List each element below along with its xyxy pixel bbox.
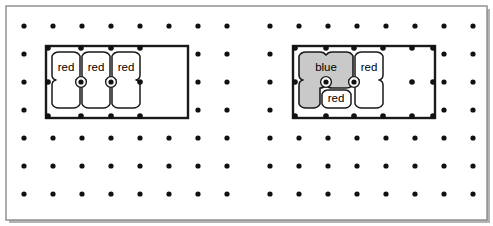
peg-dot xyxy=(354,191,359,196)
peg-dot xyxy=(21,163,26,168)
peg-dot xyxy=(166,163,171,168)
peg-dot xyxy=(296,191,301,196)
peg-dot xyxy=(470,23,475,28)
right-piece-red-small-outline xyxy=(322,90,351,108)
peg-dot xyxy=(21,107,26,112)
peg-dot xyxy=(50,191,55,196)
peg-dot xyxy=(224,79,229,84)
peg-dot xyxy=(79,23,84,28)
peg-dot xyxy=(441,79,446,84)
peg-dot xyxy=(441,191,446,196)
peg-dot xyxy=(325,135,330,140)
right-board[interactable]: blue red red xyxy=(292,45,436,119)
peg-dot xyxy=(296,23,301,28)
peg-dot xyxy=(383,191,388,196)
diagram-svg: red red red xyxy=(0,0,493,226)
peg-dot xyxy=(50,23,55,28)
peg-dot xyxy=(470,163,475,168)
peg-dot xyxy=(354,135,359,140)
peg-dot xyxy=(470,107,475,112)
node-dot xyxy=(78,79,83,84)
peg-dot xyxy=(21,191,26,196)
peg-dot xyxy=(441,51,446,56)
peg-dot xyxy=(137,23,142,28)
peg-dot xyxy=(354,163,359,168)
peg-dot xyxy=(470,191,475,196)
peg-dot xyxy=(108,191,113,196)
peg-dot xyxy=(267,79,272,84)
peg-dot xyxy=(137,163,142,168)
peg-dot xyxy=(224,51,229,56)
peg-dot xyxy=(224,23,229,28)
peg-dot xyxy=(354,23,359,28)
peg-dot xyxy=(79,163,84,168)
peg-dot xyxy=(412,191,417,196)
right-piece-red-small[interactable]: red xyxy=(322,90,351,108)
peg-dot xyxy=(195,163,200,168)
peg-dot xyxy=(166,135,171,140)
peg-dot xyxy=(470,135,475,140)
peg-dot xyxy=(470,51,475,56)
peg-dot xyxy=(50,135,55,140)
peg-dot xyxy=(195,23,200,28)
peg-dot xyxy=(325,23,330,28)
peg-dot xyxy=(224,107,229,112)
peg-dot xyxy=(137,135,142,140)
peg-dot xyxy=(195,51,200,56)
peg-dot xyxy=(79,191,84,196)
peg-dot xyxy=(412,163,417,168)
peg-dot xyxy=(441,163,446,168)
peg-dot xyxy=(195,107,200,112)
peg-dot xyxy=(108,135,113,140)
node-dot xyxy=(351,79,356,84)
peg-dot xyxy=(412,23,417,28)
peg-dot xyxy=(296,163,301,168)
peg-dot xyxy=(267,107,272,112)
peg-dot xyxy=(224,191,229,196)
peg-dot xyxy=(137,191,142,196)
node-dot xyxy=(323,79,328,84)
peg-dot xyxy=(195,79,200,84)
peg-dot xyxy=(441,23,446,28)
peg-dot xyxy=(108,163,113,168)
peg-dot xyxy=(441,107,446,112)
left-board[interactable]: red red red xyxy=(45,45,188,119)
diagram-canvas: red red red xyxy=(0,0,493,226)
peg-dot xyxy=(21,51,26,56)
peg-dot xyxy=(267,163,272,168)
peg-dot xyxy=(325,191,330,196)
peg-dot xyxy=(79,135,84,140)
peg-dot xyxy=(470,79,475,84)
peg-dot xyxy=(108,23,113,28)
peg-dot xyxy=(441,135,446,140)
peg-dot xyxy=(224,163,229,168)
peg-dot xyxy=(166,191,171,196)
peg-dot xyxy=(21,23,26,28)
peg-dot xyxy=(296,135,301,140)
peg-dot xyxy=(50,163,55,168)
peg-dot xyxy=(267,23,272,28)
peg-dot xyxy=(383,163,388,168)
peg-dot xyxy=(267,191,272,196)
peg-dot xyxy=(325,163,330,168)
peg-dot xyxy=(412,135,417,140)
peg-dot xyxy=(267,51,272,56)
peg-dot xyxy=(166,23,171,28)
peg-dot xyxy=(21,79,26,84)
peg-dot xyxy=(267,135,272,140)
peg-dot xyxy=(383,135,388,140)
peg-dot xyxy=(224,135,229,140)
peg-dot xyxy=(383,23,388,28)
peg-dot xyxy=(195,135,200,140)
node-dot xyxy=(108,79,113,84)
peg-dot xyxy=(21,135,26,140)
peg-dot xyxy=(195,191,200,196)
